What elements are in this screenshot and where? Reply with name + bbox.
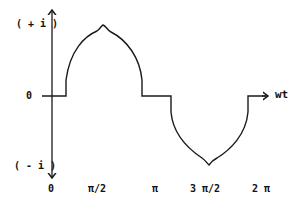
x-tick-2pi: 2 π xyxy=(252,184,270,194)
current-waveform xyxy=(42,25,266,165)
x-tick-pi-half: π/2 xyxy=(88,184,106,194)
x-axis-label: wt xyxy=(275,89,288,100)
x-tick-3pi-half: 3 π/2 xyxy=(190,184,220,194)
y-top-label: ( + i ) xyxy=(16,19,58,29)
waveform-diagram xyxy=(0,0,300,205)
x-tick-0: 0 xyxy=(48,184,54,194)
y-bottom-label: ( - i ) xyxy=(14,161,56,171)
y-zero-label: 0 xyxy=(26,91,32,101)
x-tick-pi: π xyxy=(152,184,158,194)
